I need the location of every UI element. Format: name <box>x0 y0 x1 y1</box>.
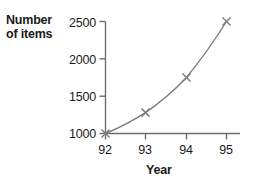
data-markers <box>102 18 231 138</box>
line-chart: Number of items 2500 2000 1500 1000 92 9… <box>0 0 254 182</box>
data-point-94 <box>183 74 191 82</box>
plot-area <box>0 0 254 182</box>
data-point-95 <box>223 18 231 26</box>
y-axis <box>100 22 106 134</box>
data-line <box>106 22 227 134</box>
x-axis <box>106 134 241 140</box>
data-point-93 <box>142 109 150 117</box>
